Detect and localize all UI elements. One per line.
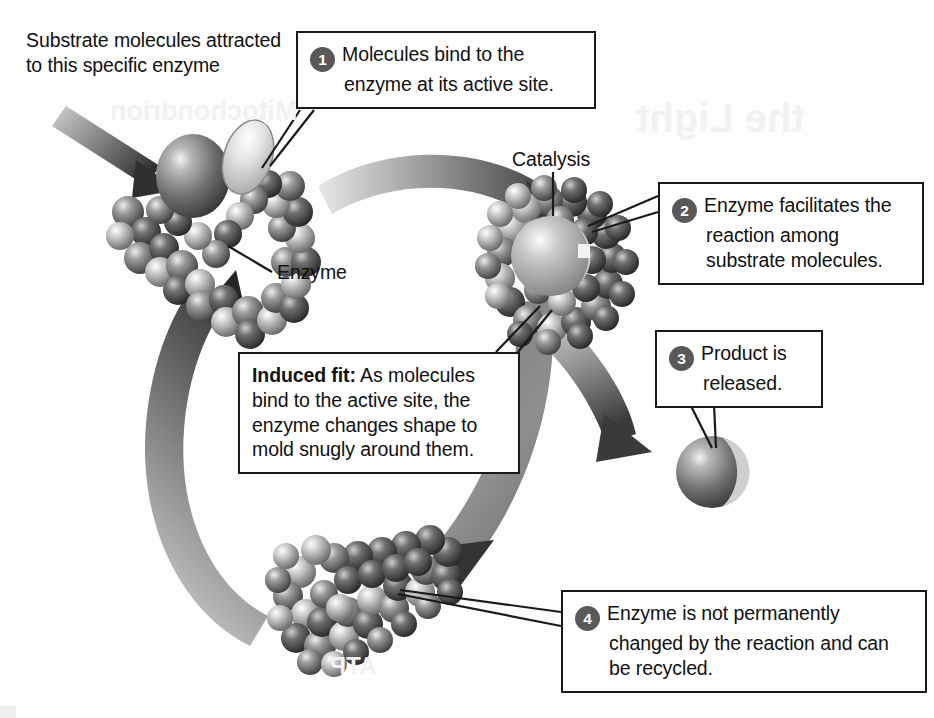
stage-product	[676, 436, 750, 508]
stage-closed-enzyme-catalysis	[475, 175, 639, 355]
leader-callout-1b	[270, 110, 314, 166]
callout-step-2: 2Enzyme facilitates the reaction among s…	[658, 182, 924, 285]
leader-enzyme	[228, 246, 272, 272]
enzyme-cycle-figure: the Light Mitochondrion the reaction ATP…	[0, 0, 934, 718]
label-catalysis: Catalysis	[512, 148, 590, 171]
step-badge-2: 2	[672, 198, 697, 223]
label-substrate-molecules: Substrate molecules attracted to this sp…	[26, 28, 286, 78]
label-enzyme: Enzyme	[277, 261, 347, 284]
stage-open-enzyme-with-substrates	[106, 113, 321, 349]
step-badge-4: 4	[575, 606, 600, 631]
page-edge-artifact	[0, 706, 16, 718]
callout-step-2-text: Enzyme facilitates the reaction among su…	[704, 194, 891, 271]
callout-step-1-text: Molecules bind to the enzyme at its acti…	[342, 43, 554, 95]
callout-step-3-text: Product is released.	[701, 342, 787, 394]
step-badge-3: 3	[669, 346, 694, 371]
callout-step-4-text: Enzyme is not permanently changed by the…	[607, 602, 889, 679]
callout-step-3: 3Product is released.	[655, 330, 823, 408]
callout-step-1: 1Molecules bind to the enzyme at its act…	[296, 31, 596, 109]
induced-fit-lead: Induced fit:	[252, 364, 356, 386]
step-badge-1: 1	[310, 47, 335, 72]
callout-step-4: 4Enzyme is not permanently changed by th…	[561, 590, 927, 693]
callout-induced-fit: Induced fit: As molecules bind to the ac…	[238, 352, 520, 474]
substrate-molecule-dark	[156, 134, 230, 218]
